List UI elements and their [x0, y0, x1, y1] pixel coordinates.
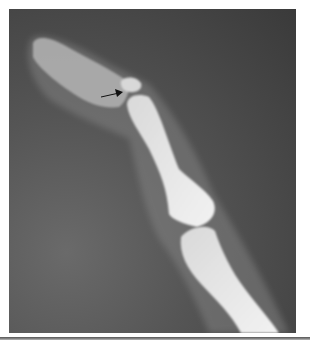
bottom-rule	[0, 337, 310, 340]
xray-image	[9, 9, 296, 333]
finger-radiograph	[9, 9, 296, 333]
